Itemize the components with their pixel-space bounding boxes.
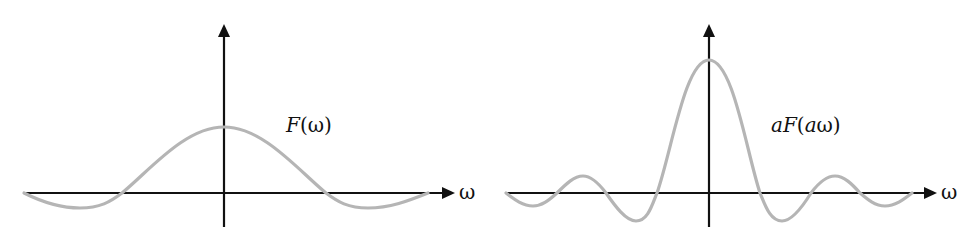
left-curve-F	[24, 127, 428, 208]
left-label-part-0: F	[285, 113, 301, 137]
left-panel: F(ω) ω	[24, 24, 475, 227]
right-x-axis-arrow-icon	[924, 187, 937, 199]
left-y-axis-arrow-icon	[218, 24, 230, 37]
right-label-part-3: ω)	[817, 113, 841, 137]
left-x-axis-arrow-icon	[442, 187, 455, 199]
left-label-part-1: (ω)	[300, 113, 332, 137]
right-x-axis-label: ω	[941, 180, 957, 204]
left-x-axis-label: ω	[459, 180, 475, 204]
right-label-part-0: aF	[771, 113, 798, 137]
fourier-scaling-diagram: F(ω) ω aF(aω) ω	[0, 0, 973, 240]
right-label-part-1: (	[797, 113, 805, 137]
right-y-axis-arrow-icon	[703, 24, 715, 37]
right-panel: aF(aω) ω	[506, 24, 957, 227]
right-label-part-2: a	[805, 113, 817, 137]
left-function-label: F(ω)	[285, 113, 332, 137]
right-function-label: aF(aω)	[771, 113, 841, 137]
